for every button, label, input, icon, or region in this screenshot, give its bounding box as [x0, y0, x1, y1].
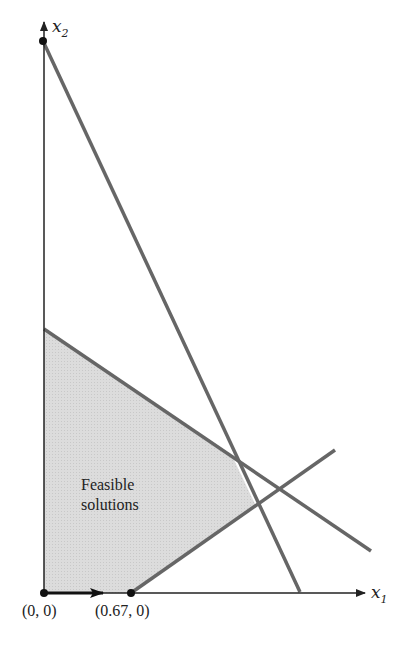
point-y-intercept	[39, 37, 47, 45]
region-label-line1: Feasible	[81, 476, 134, 493]
region-label-line2: solutions	[81, 496, 139, 513]
origin-label: (0, 0)	[22, 602, 57, 620]
x-axis-label: x1	[371, 582, 388, 606]
y-axis-label: x2	[52, 16, 69, 40]
point-origin	[40, 589, 48, 597]
point-0-67	[127, 589, 135, 597]
lp-diagram: x2 x1 Feasible solutions (0, 0) (0.67, 0…	[0, 0, 405, 645]
point-0-67-label: (0.67, 0)	[95, 602, 150, 620]
feasible-region	[44, 329, 256, 593]
